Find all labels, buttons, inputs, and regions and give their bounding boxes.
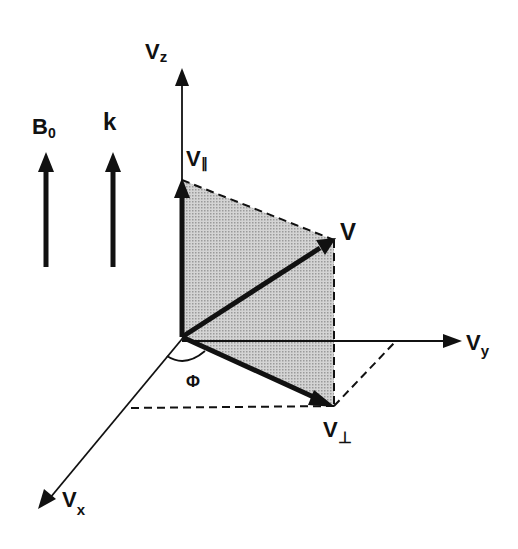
label-vz: Vz <box>145 39 167 65</box>
label-k: k <box>103 108 117 135</box>
angle-arc <box>167 351 205 361</box>
label-vy: Vy <box>466 330 490 359</box>
arrow-b0 <box>38 152 54 267</box>
label-phi: Φ <box>186 372 200 391</box>
label-v-total: V <box>340 218 356 245</box>
velocity-diagram: B0 k Vz Vy Vx V∥ V V⊥ Φ <box>0 0 518 549</box>
label-v-perp: V⊥ <box>323 417 352 446</box>
axis-x <box>38 339 182 509</box>
label-vx: Vx <box>62 487 86 518</box>
label-b0: B0 <box>32 114 56 141</box>
label-v-parallel: V∥ <box>186 146 208 172</box>
arrow-k <box>105 152 121 267</box>
